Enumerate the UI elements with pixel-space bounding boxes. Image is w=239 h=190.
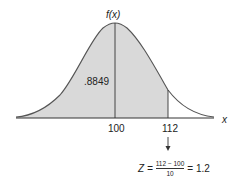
z-score-formula: Z = 112 − 100 10 = 1.2	[138, 160, 210, 177]
formula-numerator: 112 − 100	[156, 160, 185, 167]
formula-denominator: 10	[166, 170, 173, 177]
shaded-area	[16, 23, 168, 118]
value-tick-label: 112	[162, 124, 178, 134]
y-axis-label: f(x)	[106, 10, 120, 20]
shaded-area-label: .8849	[84, 77, 109, 87]
fraction-bar	[156, 168, 185, 169]
arrow-down-icon	[166, 146, 171, 151]
formula-fraction: 112 − 100 10	[156, 160, 185, 177]
mean-tick-label: 100	[108, 124, 125, 134]
formula-result: = 1.2	[187, 163, 210, 174]
x-axis-label: x	[222, 115, 227, 125]
formula-lhs: Z =	[138, 163, 153, 174]
